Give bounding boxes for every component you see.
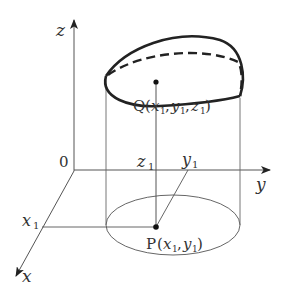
point-p: [153, 224, 159, 230]
svg-text:,: ,: [165, 97, 170, 115]
svg-text:P: P: [146, 235, 156, 253]
svg-text:x: x: [22, 211, 31, 230]
svg-text:Q: Q: [133, 97, 145, 115]
top-surface-back-dashed: [108, 53, 242, 96]
svg-text:x: x: [163, 235, 172, 253]
svg-text:y: y: [170, 97, 180, 115]
svg-text:z: z: [190, 97, 199, 115]
svg-text:1: 1: [192, 159, 198, 170]
svg-text:y: y: [181, 150, 192, 169]
z1-label: z 1: [136, 152, 154, 172]
x-axis-label: x: [22, 266, 32, 286]
svg-text:,: ,: [177, 235, 182, 253]
svg-text:z: z: [136, 152, 146, 171]
svg-text:(: (: [145, 97, 151, 115]
svg-text:y: y: [182, 235, 192, 253]
svg-text:): ): [197, 235, 203, 253]
point-q: [153, 79, 158, 84]
svg-text:): ): [205, 97, 211, 115]
svg-text:x: x: [151, 97, 160, 115]
y1-label: y 1: [181, 150, 198, 170]
point-p-label: P ( x 1 , y 1 ): [146, 235, 203, 254]
point-q-label: Q ( x 1 , y 1 , z 1 ): [133, 97, 211, 116]
svg-text:1: 1: [148, 161, 154, 172]
svg-text:1: 1: [33, 220, 39, 231]
svg-text:(: (: [157, 235, 163, 253]
y-axis-label: y: [255, 174, 266, 194]
z-axis-label: z: [55, 20, 66, 40]
top-surface-upper-arc: [106, 36, 243, 96]
svg-text:,: ,: [185, 97, 190, 115]
origin-label: 0: [59, 153, 69, 171]
y1-projection-line: [156, 170, 188, 227]
x1-label: x 1: [22, 211, 39, 231]
diagram-canvas: z y x 0 z 1 y 1 x 1 Q ( x 1 , y 1 , z 1 …: [0, 0, 285, 291]
